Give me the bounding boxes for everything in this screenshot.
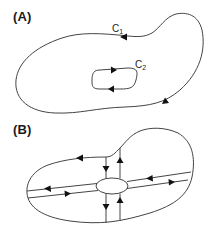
arrow-c2-top <box>111 67 117 74</box>
arrow-lower-right-up <box>117 197 124 203</box>
panel-b-diagram <box>0 115 216 231</box>
arrow-lower-left-down <box>103 204 110 210</box>
panel-b: (B) <box>0 115 216 231</box>
inner-hole <box>96 178 128 194</box>
cut-line-right-lower <box>127 180 188 189</box>
arrow-upper-left-down <box>103 166 110 172</box>
arrow-boundary-top <box>76 155 83 162</box>
arrow-upper-right-up <box>117 157 124 163</box>
label-c2: C2 <box>135 59 146 71</box>
arrow-right-lower-right <box>169 179 176 186</box>
cut-line-right-upper <box>127 172 191 182</box>
contour-c1 <box>16 13 203 113</box>
arrow-left-lower-right <box>65 191 72 198</box>
cut-line-left-upper <box>27 184 97 192</box>
panel-label-b: (B) <box>13 122 32 137</box>
arrow-c2-bottom <box>108 86 114 93</box>
arrow-left-upper-left <box>44 186 51 193</box>
label-c1: C1 <box>112 23 123 35</box>
panel-a-diagram: C1 C2 <box>0 0 216 115</box>
arrow-right-upper-left <box>146 175 153 182</box>
panel-label-a: (A) <box>13 9 32 24</box>
cut-line-left-lower <box>28 191 98 199</box>
panel-a: C1 C2 (A) <box>0 0 216 115</box>
